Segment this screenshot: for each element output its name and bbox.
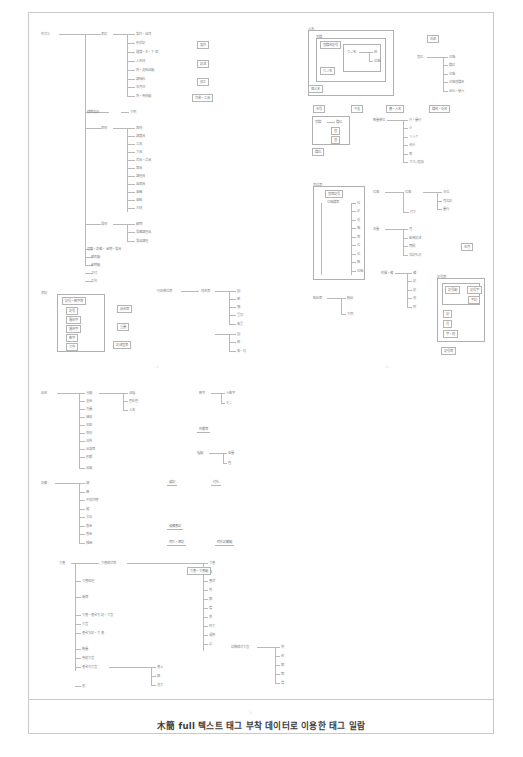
tree-connector <box>75 581 81 582</box>
tree-leaf-label: 形態 <box>86 455 92 459</box>
inline-box-label: 職名・氏名 <box>429 105 450 113</box>
side-box-label: 年月 <box>461 243 473 251</box>
tree-connector <box>181 291 199 292</box>
tree-connector <box>229 299 236 300</box>
tree-connector <box>275 656 280 657</box>
tree-connector <box>257 647 275 648</box>
side-item-box: 品名等 <box>117 305 132 313</box>
tree-connector <box>443 82 448 83</box>
tree-leaf-label: 容量 <box>228 451 234 455</box>
tree-leaf-label: 位階 <box>449 72 455 76</box>
tree-connector <box>75 667 81 668</box>
tree-leaf-label: 文書様式等 <box>101 561 117 565</box>
tree-connector <box>351 211 356 212</box>
tree-connector <box>229 291 236 292</box>
tree-root-label: 官位 <box>417 55 423 59</box>
tree-leaf-label: 文書処理 <box>82 579 94 583</box>
tree-spine <box>403 120 404 162</box>
tree-leaf-label: 郡 <box>237 297 240 301</box>
tree-leaf-label: 職位 <box>449 63 455 67</box>
tree-leaf-label: 文言 <box>82 622 88 626</box>
tree-leaf-label: 品種 <box>129 391 135 395</box>
side-box-label: 贄備書記 <box>167 523 183 530</box>
tree-leaf-label: 国 <box>237 332 240 336</box>
tree-leaf-label: 有位記 <box>443 199 452 203</box>
tree-connector <box>341 314 346 315</box>
tree-leaf-label: 解 <box>281 663 284 667</box>
tree-leaf-label: 数量 <box>82 647 88 651</box>
tree-connector <box>351 237 356 238</box>
framed-group-item: 数字 <box>66 334 78 342</box>
tree-connector <box>223 453 227 454</box>
tree-connector <box>359 52 369 53</box>
tree-leaf-label: 住所 <box>86 439 92 443</box>
framed-group-item: 異体字 <box>66 325 81 333</box>
tree-connector <box>443 74 448 75</box>
tree-leaf-label: 条・坊 <box>237 349 246 353</box>
tree-connector <box>423 192 437 193</box>
tree-leaf-label: 里坊 <box>237 313 243 317</box>
tree-leaf-label: 案 <box>281 672 284 676</box>
tree-spine <box>203 563 204 651</box>
rank-item: 位 <box>357 201 360 205</box>
tree-connector <box>79 441 85 442</box>
tree-connector <box>403 238 408 239</box>
tree-leaf-label: 符 <box>281 645 284 649</box>
figure-caption: 木簡 full 텍스트 태그 부착 데이터로 이용한 태그 일람 <box>29 719 493 731</box>
tree-spine <box>221 393 222 403</box>
tree-leaf-label: 位階 <box>449 55 455 59</box>
left-lower2-group: 記載 調 庸 中男作物 贄 交易 春米 舂米 雑徭 贄記 付札 贄備書記 荷札・… <box>29 471 299 551</box>
tree-connector <box>79 449 85 450</box>
small-box-label: ウジ名 <box>320 67 335 75</box>
tree-root-label: 官職 <box>315 120 321 124</box>
tree-root-label: 行政単位等 <box>157 289 173 293</box>
tree-connector <box>403 154 408 155</box>
symbol-box-label: 記号字 <box>467 286 482 294</box>
tree-connector <box>407 290 412 291</box>
side-label-box: 形態等 <box>197 426 210 433</box>
tree-connector <box>75 658 81 659</box>
tree-leaf-label: 職位 <box>336 120 342 124</box>
tree-leaf-label: 支給 <box>86 399 92 403</box>
tree-connector <box>203 617 208 618</box>
tree-spine <box>229 334 230 352</box>
tree-leaf-label: 書状 <box>209 579 215 583</box>
tree-connector <box>403 128 408 129</box>
tree-branch-label: 地名等 <box>201 289 210 293</box>
tree-connector <box>79 517 85 518</box>
symbol-box-label: 記号類 <box>445 286 460 294</box>
tree-connector <box>229 334 236 335</box>
tree-connector <box>75 624 81 625</box>
tree-leaf-label: 備 <box>413 271 416 275</box>
tree-leaf-label: 郷 <box>237 305 240 309</box>
tree-leaf-label: 方量 <box>86 407 92 411</box>
tree-connector <box>403 246 408 247</box>
tree-connector <box>403 162 408 163</box>
tree-spine <box>351 203 352 275</box>
tree-connector <box>123 410 128 411</box>
tree-root-label: 種類 <box>197 451 203 455</box>
tree-leaf-label: 束 <box>409 152 412 156</box>
tree-spine <box>341 298 342 315</box>
tree-root-label: ウジ名 <box>347 50 356 54</box>
tree-spine <box>321 203 322 275</box>
tree-connector <box>229 307 236 308</box>
tree-leaf-label: 記 <box>413 288 416 292</box>
tree-connector <box>427 57 443 58</box>
side-box-label: 荷札・運記 <box>167 539 186 546</box>
tree-connector <box>369 61 373 62</box>
tree-connector <box>79 425 85 426</box>
tree-connector <box>211 393 221 394</box>
rank-item: 無 <box>357 260 360 264</box>
rank-header-box: 官等記号 <box>325 190 343 198</box>
tree-connector <box>203 608 208 609</box>
scanned-page: 形式と 表記 製作・自然 形状記 題箋・木・下端 人名材 内・支給品類 調味料 … <box>28 12 494 734</box>
tree-leaf-label: 他 <box>413 296 416 300</box>
tree-spine <box>75 563 76 671</box>
tree-leaf-label: 中男作物 <box>86 498 98 502</box>
tree-leaf-label: 舂米 <box>86 532 92 536</box>
tree-root-label: 文書 <box>59 561 65 565</box>
framed-group-item: 記号 <box>66 307 78 315</box>
tree-connector <box>203 599 208 600</box>
tree-connector <box>79 401 85 402</box>
